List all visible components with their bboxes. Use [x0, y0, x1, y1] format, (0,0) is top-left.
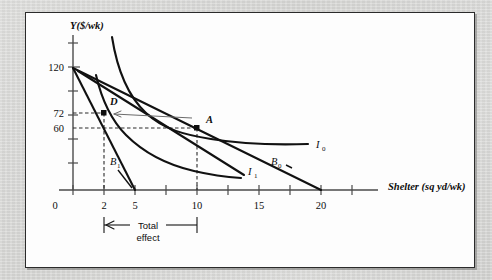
y-axis-ticks — [68, 43, 80, 163]
svg-text:I: I — [247, 166, 252, 177]
y-tick-label-60: 60 — [54, 123, 65, 134]
data-point-d[interactable] — [101, 110, 107, 116]
svg-text:0: 0 — [278, 162, 282, 170]
data-point-a[interactable] — [194, 125, 200, 131]
y-axis-title: Y($/wk) — [70, 20, 104, 32]
point-label-a: A — [205, 114, 213, 125]
curve-label-i0: I 0 — [315, 139, 326, 153]
x-tick-label-20: 20 — [316, 200, 327, 211]
x-tick-label-2: 2 — [101, 200, 106, 211]
svg-text:1: 1 — [117, 162, 121, 170]
svg-text:I: I — [315, 139, 320, 150]
total-effect-label-line1: Total — [138, 220, 158, 231]
svg-text:1: 1 — [254, 172, 258, 180]
figure-panel: Y($/wk) Shelter (sq yd/wk) 120 72 60 0 2… — [25, 12, 475, 268]
total-effect-label-line2: effect — [136, 232, 159, 243]
svg-text:0: 0 — [322, 145, 326, 153]
y-tick-label-72: 72 — [54, 108, 65, 119]
x-axis-title: Shelter (sq yd/wk) — [388, 181, 466, 193]
x-tick-label-10: 10 — [192, 200, 203, 211]
x-tick-label-5: 5 — [132, 200, 137, 211]
curve-label-i1: I 1 — [247, 166, 258, 180]
y-tick-label-120: 120 — [48, 62, 64, 73]
point-label-d: D — [109, 96, 118, 107]
x-tick-label-0: 0 — [52, 200, 57, 211]
svg-text:B: B — [110, 156, 117, 167]
svg-text:B: B — [271, 156, 278, 167]
x-tick-label-15: 15 — [254, 200, 265, 211]
economics-indifference-chart: Y($/wk) Shelter (sq yd/wk) 120 72 60 0 2… — [26, 13, 473, 266]
